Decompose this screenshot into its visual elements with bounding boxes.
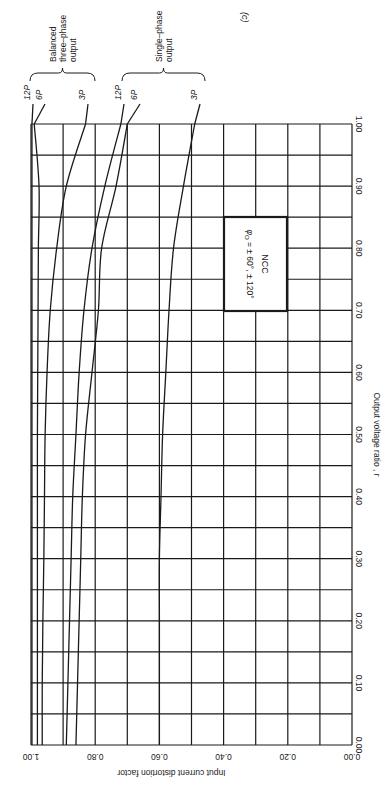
y-axis-title: Input current distortion factor	[117, 768, 225, 778]
leader-line	[121, 104, 124, 124]
x-tick-label: 0.90	[354, 178, 364, 195]
y-tick-label: 0.00	[343, 752, 360, 762]
x-tick-label: 0.40	[354, 488, 364, 505]
x-tick-label: 0.30	[354, 550, 364, 567]
group-brace	[122, 68, 205, 81]
y-tick-label: 0.80	[87, 752, 104, 762]
series-label: 12P	[22, 85, 32, 100]
x-tick-label: 0.80	[354, 240, 364, 257]
y-tick-label: 0.60	[151, 752, 168, 762]
x-tick-label: 0.60	[354, 364, 364, 381]
x-tick-label: 0.70	[354, 302, 364, 319]
group-label: three–phase	[58, 14, 68, 62]
x-tick-label: 0.00	[354, 737, 364, 754]
leader-line	[127, 104, 140, 124]
distortion-factor-chart: 0.000.200.400.600.801.000.000.100.200.30…	[0, 0, 382, 797]
group-label: Balanced	[48, 26, 58, 62]
x-tick-label: 0.50	[354, 426, 364, 443]
y-tick-label: 0.20	[279, 752, 296, 762]
series-label: 3P	[77, 89, 87, 100]
group-label: Single–phase	[154, 10, 164, 62]
y-tick-label: 1.00	[22, 752, 39, 762]
y-tick-label: 0.40	[215, 752, 232, 762]
series-label: 6P	[129, 89, 139, 100]
ncc-label: NCC	[260, 254, 270, 274]
x-axis-title: Output voltage ratio , r	[372, 392, 382, 476]
x-tick-label: 0.20	[354, 613, 364, 630]
leader-line	[34, 104, 45, 124]
leader-line	[32, 104, 33, 124]
series-label: 3P	[189, 89, 199, 100]
series-label: 6P	[34, 89, 44, 100]
curves	[32, 104, 200, 745]
grid	[31, 124, 352, 745]
labels: 0.000.200.400.600.801.000.000.100.200.30…	[22, 10, 382, 778]
group-label: output	[68, 38, 78, 62]
series-label: 12P	[113, 85, 123, 100]
group-brace	[30, 68, 95, 81]
group-label: output	[164, 38, 174, 62]
x-tick-label: 1.00	[354, 116, 364, 133]
x-tick-label: 0.10	[354, 675, 364, 692]
phase-angle-label: φO = ± 60°, ± 120°	[244, 229, 255, 298]
leader-line	[195, 104, 200, 124]
ncc-annotation-box: NCC φO = ± 60°, ± 120°	[224, 217, 287, 311]
leader-line	[86, 104, 88, 124]
figure-label: (c)	[240, 12, 250, 23]
